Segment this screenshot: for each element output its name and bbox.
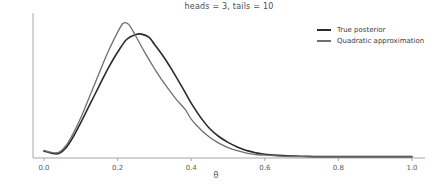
legend-item-true-posterior: True posterior (317, 24, 424, 36)
x-axis-label: θ (201, 171, 231, 180)
x-tick-label: 0.2 (112, 164, 123, 172)
posterior-approximation-figure: heads = 3, tails = 10 0.00.20.40.60.81.0… (0, 0, 446, 189)
legend-item-quadratic-approximation: Quadratic approximation (317, 36, 424, 48)
x-tick-label: 0.0 (38, 164, 49, 172)
true-posterior-line-swatch (317, 29, 331, 31)
x-tick-label: 0.8 (333, 164, 344, 172)
legend-label-true-posterior: True posterior (337, 26, 386, 34)
legend: True posterior Quadratic approximation (317, 24, 424, 47)
x-tick-label: 0.6 (259, 164, 271, 172)
x-tick-label: 0.4 (186, 164, 198, 172)
x-tick-label: 1.0 (406, 164, 417, 172)
quadratic-approximation-line-swatch (317, 40, 331, 42)
true-posterior-curve (44, 34, 412, 157)
legend-label-quadratic-approximation: Quadratic approximation (337, 37, 424, 45)
